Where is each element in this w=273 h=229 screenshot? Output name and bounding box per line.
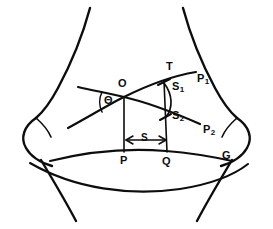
base-rim-front <box>50 150 232 161</box>
label-center-point-o: O <box>118 78 127 89</box>
label-path-p1-base: P <box>197 72 204 84</box>
label-path-p2-base: P <box>203 123 210 135</box>
label-base-point-p: P <box>120 155 127 166</box>
label-station-s1-subscript: 1 <box>180 85 184 94</box>
label-tangent-point-t: T <box>166 61 173 72</box>
label-path-p1-subscript: 1 <box>205 77 209 86</box>
outline-upper-right-curve <box>183 8 237 118</box>
diagram-drawing <box>0 0 273 229</box>
outline-right-inner-tick <box>222 118 237 137</box>
label-path-p2-subscript: 2 <box>211 128 215 137</box>
label-station-s2-subscript: 2 <box>180 114 184 123</box>
label-station-s2-base: S <box>172 109 179 121</box>
outline-upper-left-curve <box>36 8 90 118</box>
label-angle-theta: Θ <box>104 95 113 106</box>
outline-left-lobe <box>23 118 52 166</box>
label-station-s1: S1 <box>172 81 184 92</box>
label-station-s2: S2 <box>172 110 184 121</box>
outline-lower-left-leg <box>41 160 76 221</box>
label-station-s1-base: S <box>172 80 179 92</box>
label-path-p2: P2 <box>203 124 215 135</box>
outline-left-inner-tick <box>36 118 51 137</box>
label-base-point-g: G <box>222 150 231 161</box>
diagram-canvas: O Θ T S1 S2 P1 P2 S P Q G <box>0 0 273 229</box>
label-spacing-s: S <box>141 133 148 143</box>
outline-lower-right-leg <box>197 160 232 221</box>
label-base-point-q: Q <box>162 156 171 167</box>
label-path-p1: P1 <box>197 73 209 84</box>
